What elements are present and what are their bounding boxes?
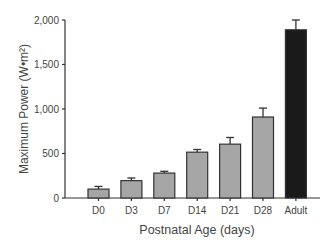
bar-rect	[187, 152, 208, 198]
bar-rect	[154, 173, 175, 198]
x-tick-label: D21	[221, 205, 240, 216]
bar-d21: D21	[220, 137, 241, 216]
y-tick-label: 500	[42, 148, 59, 159]
bar-chart: 05001,0001,5002,000 D0D3D7D14D21D28Adult…	[0, 0, 333, 247]
x-tick-label: Adult	[285, 205, 308, 216]
x-tick-label: D28	[254, 205, 273, 216]
bar-d7: D7	[154, 171, 175, 216]
x-axis-title: Postnatal Age (days)	[139, 223, 254, 237]
bar-rect	[121, 181, 142, 198]
chart-canvas: 05001,0001,5002,000 D0D3D7D14D21D28Adult…	[0, 0, 333, 247]
bar-rect	[285, 30, 306, 198]
bars: D0D3D7D14D21D28Adult	[88, 20, 308, 216]
bar-d3: D3	[121, 178, 142, 216]
x-tick-label: D14	[188, 205, 207, 216]
x-tick-label: D3	[125, 205, 138, 216]
bar-rect	[88, 189, 109, 198]
x-tick-label: D7	[158, 205, 171, 216]
y-tick-label: 0	[53, 193, 59, 204]
bar-d0: D0	[88, 186, 109, 216]
bar-rect	[220, 144, 241, 198]
bar-d14: D14	[187, 149, 208, 216]
y-axis-title: Maximum Power (W•m²)	[17, 44, 31, 174]
bar-d28: D28	[253, 108, 274, 216]
y-axis: 05001,0001,5002,000	[34, 15, 65, 204]
y-tick-label: 1,500	[34, 59, 59, 70]
y-tick-label: 2,000	[34, 15, 59, 26]
bar-adult: Adult	[285, 20, 308, 216]
x-tick-label: D0	[92, 205, 105, 216]
y-tick-label: 1,000	[34, 104, 59, 115]
bar-rect	[253, 117, 274, 198]
